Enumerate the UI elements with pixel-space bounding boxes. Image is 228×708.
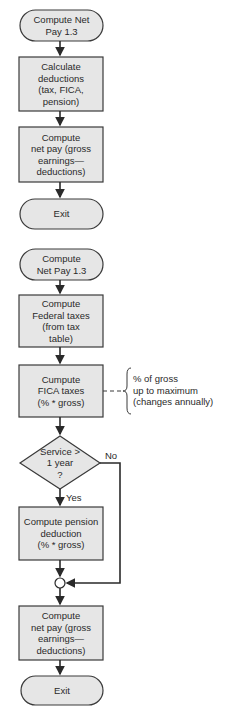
pension-step: Compute pension deduction (% * gross) xyxy=(19,507,103,560)
no-branch-label: No xyxy=(105,450,117,462)
yes-branch-label: Yes xyxy=(66,492,82,504)
federal-taxes-step: Compute Federal taxes (from tax table) xyxy=(19,295,103,347)
fica-annotation: % of gross up to maximum (changes annual… xyxy=(133,373,213,408)
deductions-step: Calculate deductions (tax, FICA, pension… xyxy=(19,57,103,111)
annotation-brace xyxy=(123,368,131,414)
netpay-detail-step: Compute net pay (gross earnings— deducti… xyxy=(19,606,103,660)
start-terminal: Compute Net Pay 1.3 xyxy=(20,10,103,41)
detail-exit-terminal: Exit xyxy=(21,676,103,705)
detail-start-terminal: Compute Net Pay 1.3 xyxy=(20,249,103,280)
connector-circle xyxy=(55,578,65,588)
exit-terminal: Exit xyxy=(20,199,103,229)
netpay-step: Compute net pay (gross earnings— deducti… xyxy=(19,127,103,182)
fica-taxes-step: Cumpute FICA taxes (% * gross) xyxy=(19,365,103,417)
service-decision: Service > 1 year ? xyxy=(20,444,100,482)
